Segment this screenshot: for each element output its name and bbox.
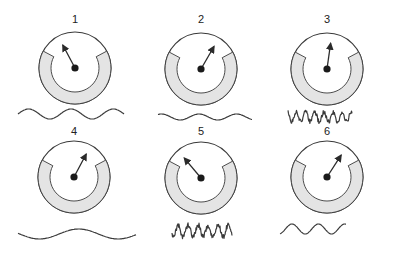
waveform-trace [18,229,136,239]
waveform-trace [158,114,252,120]
dial-panel-2: 2 [158,13,252,120]
panel-label: 1 [72,13,78,25]
needle-pivot [323,173,330,180]
panel-label: 2 [198,13,204,25]
needle-pivot [197,65,204,72]
panel-label: 3 [324,13,330,25]
dial-panel-1: 1 [18,13,124,119]
dial-panel-6: 6 [280,125,363,234]
needle-pivot [70,173,77,180]
waveform-trace [172,223,232,239]
dial-panel-3: 3 [288,13,363,124]
panel-label: 4 [71,125,77,137]
panel-label: 5 [198,125,204,137]
waveform-trace [280,224,346,234]
waveform-trace [288,110,352,123]
dial-figure: 123456 [0,0,394,253]
waveform-trace [18,109,124,119]
needle-pivot [323,65,330,72]
needle-pivot [71,64,78,71]
dial-panel-4: 4 [18,125,136,239]
panel-label: 6 [324,125,330,137]
needle-pivot [197,174,204,181]
dial-panel-5: 5 [165,125,237,239]
